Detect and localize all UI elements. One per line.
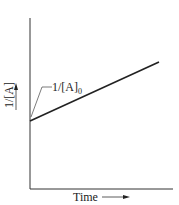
- plot: [0, 0, 179, 205]
- x-axis-label: Time: [73, 190, 98, 205]
- data-line: [30, 62, 159, 121]
- x-arrow-icon: [123, 195, 130, 199]
- y-axis-label: 1/[A]: [2, 82, 17, 108]
- intercept-annotation: 1/[A]0: [52, 80, 82, 96]
